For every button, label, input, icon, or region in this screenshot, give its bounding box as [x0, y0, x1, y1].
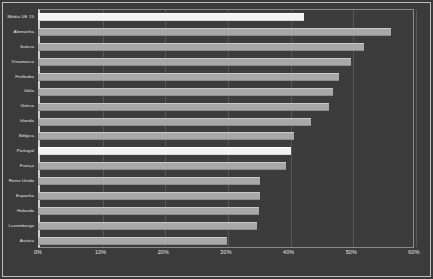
category-label: Alemanha: [13, 24, 34, 40]
bar-row: [38, 188, 260, 204]
bar-irlanda: [38, 118, 311, 126]
category-label: Espanha: [16, 188, 34, 204]
bar-suécia: [38, 43, 364, 51]
bar-row: [38, 9, 304, 25]
category-label: Irlanda: [20, 114, 34, 130]
bar-row: [38, 114, 311, 130]
x-tick-label: 0%: [34, 250, 42, 255]
x-tick-label: 40%: [283, 250, 294, 255]
bar-row: [38, 39, 364, 55]
bar-row: [38, 173, 260, 189]
bar-luxemburgo: [38, 222, 257, 230]
chart-container: Média UE 15AlemanhaSuéciaDinamarcaFinlân…: [0, 0, 433, 279]
bar-row: [38, 69, 339, 85]
category-label: Holanda: [17, 203, 34, 219]
x-tick-label: 20%: [158, 250, 169, 255]
gridline: [416, 10, 417, 247]
category-label: Média UE 15: [8, 9, 34, 25]
bar-média-ue-15: [38, 13, 304, 21]
x-tick-label: 30%: [220, 250, 231, 255]
bar-row: [38, 233, 227, 249]
x-tick-label: 60%: [408, 250, 419, 255]
category-label: Suécia: [20, 39, 34, 55]
bar-alemanha: [38, 28, 391, 36]
bar-row: [38, 143, 291, 159]
bar-portugal: [38, 147, 291, 155]
category-label: Áustria: [20, 233, 34, 249]
bar-row: [38, 24, 391, 40]
bar-row: [38, 99, 329, 115]
category-label: Bélgica: [19, 129, 34, 145]
bar-row: [38, 84, 333, 100]
bar-espanha: [38, 192, 260, 200]
bar-grécia: [38, 103, 329, 111]
bar-itália: [38, 88, 333, 96]
category-label: Reino Unido: [9, 173, 34, 189]
x-tick-label: 10%: [95, 250, 106, 255]
category-axis-labels: Média UE 15AlemanhaSuéciaDinamarcaFinlân…: [0, 9, 36, 248]
bar-reino-unido: [38, 177, 260, 185]
category-label: Dinamarca: [12, 54, 34, 70]
category-label: Portugal: [17, 143, 34, 159]
bar-dinamarca: [38, 58, 351, 66]
bar-row: [38, 203, 259, 219]
category-label: Luxemburgo: [9, 218, 34, 234]
bar-row: [38, 129, 294, 145]
bar-holanda: [38, 207, 259, 215]
category-label: França: [20, 158, 34, 174]
bar-bélgica: [38, 132, 294, 140]
bar-frança: [38, 162, 286, 170]
category-label: Finlândia: [15, 69, 34, 85]
x-tick-label: 50%: [346, 250, 357, 255]
bar-row: [38, 218, 257, 234]
category-label: Grécia: [20, 99, 34, 115]
value-axis-labels: 0%10%20%30%40%50%60%: [0, 250, 433, 266]
bar-áustria: [38, 237, 227, 245]
bar-series: [38, 9, 414, 248]
bar-row: [38, 158, 286, 174]
category-label: Itália: [24, 84, 34, 100]
bar-row: [38, 54, 351, 70]
bar-finlândia: [38, 73, 339, 81]
